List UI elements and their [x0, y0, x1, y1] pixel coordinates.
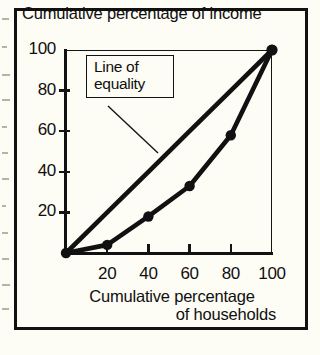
y-axis-tick-label: 100	[10, 39, 56, 59]
y-axis-tick	[59, 211, 70, 213]
x-axis-tick	[106, 244, 108, 255]
x-axis-tick-label: 100	[248, 264, 296, 284]
scanned-page: Cumulative percentage of income 20406080…	[0, 0, 320, 355]
x-axis-tick	[188, 244, 190, 255]
x-axis-tick	[230, 244, 232, 255]
y-axis-tick-label: 80	[10, 80, 56, 100]
line-of-equality-callout: Line of equality	[86, 55, 174, 98]
data-point-marker	[226, 130, 236, 140]
x-axis-title-line-1: Cumulative percentage	[60, 287, 284, 305]
callout-line-1: Line of	[94, 59, 167, 76]
y-axis-tick	[59, 89, 70, 91]
y-axis-tick-label: 20	[10, 201, 56, 221]
callout-line-2: equality	[94, 76, 167, 93]
data-point-marker	[266, 44, 277, 55]
y-axis-tick	[59, 130, 70, 132]
chart-title: Cumulative percentage of income	[22, 4, 262, 23]
y-axis-tick-label: 60	[10, 120, 56, 140]
data-point-marker	[184, 181, 194, 191]
data-point-marker	[143, 211, 153, 221]
x-axis-tick	[147, 244, 149, 255]
y-axis-tick-label: 40	[10, 161, 56, 181]
y-axis-tick	[59, 171, 70, 173]
data-point-marker	[61, 248, 71, 258]
x-axis-title: Cumulative percentage of households	[60, 287, 284, 324]
callout-leader-line	[108, 106, 158, 153]
x-axis-title-line-2: of households	[60, 305, 284, 323]
